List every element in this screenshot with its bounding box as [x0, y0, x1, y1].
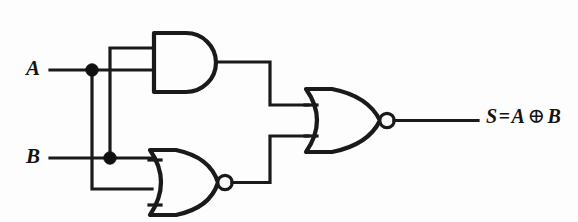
- input-label-b: B: [26, 146, 41, 167]
- logic-circuit-figure: A B S=A⊕B: [0, 0, 578, 222]
- and-gate-body: [154, 33, 216, 92]
- nor-gate-output-bubble: [380, 113, 394, 127]
- wire-nor-lower-output: [232, 136, 308, 183]
- output-equals-sign: =: [498, 105, 512, 127]
- wire-and-output: [216, 62, 308, 105]
- junction-dot-b: [104, 152, 116, 164]
- input-label-a: A: [26, 58, 41, 79]
- wire-a-branch-down: [92, 70, 152, 189]
- wire-b-branch-up: [110, 48, 152, 158]
- output-operand-left: A: [512, 105, 526, 127]
- nor-gate-output-body: [306, 89, 380, 152]
- output-signal-label: S: [486, 105, 498, 127]
- nor-gate-lower-bubble: [218, 175, 232, 189]
- junction-dot-a: [86, 64, 98, 76]
- output-expression: S=A⊕B: [486, 106, 561, 127]
- xor-operator-icon: ⊕: [525, 104, 547, 128]
- output-operand-right: B: [547, 105, 561, 127]
